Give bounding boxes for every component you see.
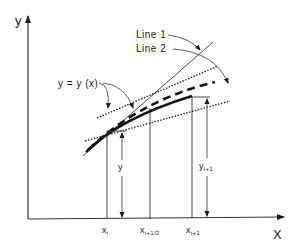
callout-line-1-leader — [168, 35, 200, 50]
tick-x-i-plus-1: xi+1 — [186, 226, 200, 236]
curve-label: y = y (x) — [58, 79, 98, 89]
x-axis-label: X — [273, 228, 282, 241]
solid-curve-y-of-x — [86, 96, 192, 152]
vertical-guides — [107, 97, 192, 219]
diagram-canvas: y X Line 1 Line 2 y = y (x) xi xi+1/2 xi… — [0, 0, 298, 242]
dimension-y-i-plus-1 — [192, 97, 210, 216]
line-2-upper-dotted — [97, 66, 218, 118]
tick-x-i-half: xi+1/2 — [140, 226, 160, 236]
callout-line-2-leader — [173, 49, 228, 83]
line-1-label: Line 1 — [136, 30, 166, 40]
dimension-y — [107, 131, 126, 217]
x-axis — [28, 217, 284, 219]
tick-x-i: xi — [102, 226, 108, 236]
y-axis-label: y — [15, 14, 22, 27]
dimension-y-label: y — [118, 163, 123, 172]
line-2-label: Line 2 — [136, 44, 166, 54]
dimension-y-i-plus-1-label: yi+1 — [199, 162, 213, 172]
